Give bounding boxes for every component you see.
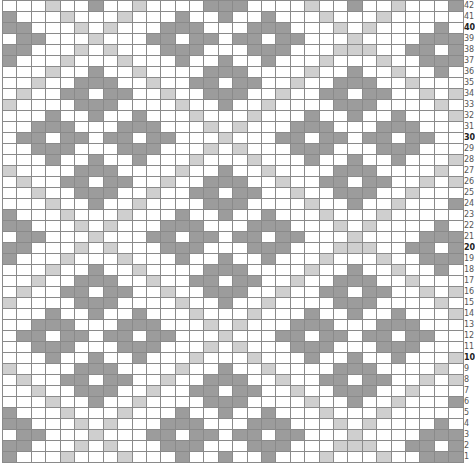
stitch-cell: [190, 166, 204, 177]
stitch-cell: [118, 221, 132, 232]
stitch-cell: [392, 320, 406, 331]
stitch-cell: [161, 12, 175, 23]
stitch-cell: [420, 188, 434, 199]
stitch-cell: [435, 452, 449, 463]
stitch-cell: [219, 23, 233, 34]
stitch-cell: [420, 243, 434, 254]
stitch-cell: [118, 34, 132, 45]
stitch-cell: [104, 342, 118, 353]
stitch-cell: [118, 419, 132, 430]
stitch-cell: [435, 298, 449, 309]
stitch-cell: [348, 221, 362, 232]
stitch-cell: [61, 386, 75, 397]
stitch-cell: [420, 12, 434, 23]
row-label: 33: [464, 99, 475, 110]
stitch-cell: [219, 375, 233, 386]
stitch-cell: [334, 298, 348, 309]
stitch-cell: [262, 298, 276, 309]
stitch-cell: [104, 23, 118, 34]
row-label: 20: [464, 242, 475, 253]
stitch-cell: [46, 320, 60, 331]
stitch-cell: [118, 67, 132, 78]
stitch-cell: [334, 331, 348, 342]
stitch-cell: [32, 199, 46, 210]
stitch-cell: [377, 430, 391, 441]
stitch-cell: [219, 452, 233, 463]
stitch-cell: [392, 243, 406, 254]
stitch-cell: [190, 133, 204, 144]
stitch-cell: [61, 155, 75, 166]
stitch-cell: [449, 166, 463, 177]
stitch-cell: [392, 210, 406, 221]
stitch-cell: [46, 1, 60, 12]
stitch-cell: [161, 243, 175, 254]
stitch-cell: [204, 1, 218, 12]
stitch-cell: [133, 67, 147, 78]
stitch-cell: [61, 111, 75, 122]
stitch-cell: [104, 397, 118, 408]
stitch-cell: [32, 397, 46, 408]
stitch-cell: [276, 265, 290, 276]
stitch-cell: [363, 23, 377, 34]
stitch-cell: [204, 353, 218, 364]
stitch-cell: [348, 188, 362, 199]
stitch-cell: [291, 67, 305, 78]
stitch-cell: [233, 210, 247, 221]
stitch-cell: [348, 287, 362, 298]
stitch-cell: [190, 364, 204, 375]
stitch-cell: [276, 56, 290, 67]
stitch-cell: [147, 89, 161, 100]
stitch-cell: [32, 408, 46, 419]
stitch-cell: [46, 452, 60, 463]
stitch-cell: [147, 177, 161, 188]
stitch-cell: [118, 89, 132, 100]
stitch-cell: [204, 408, 218, 419]
stitch-cell: [190, 320, 204, 331]
stitch-cell: [262, 419, 276, 430]
stitch-cell: [32, 188, 46, 199]
stitch-cell: [248, 177, 262, 188]
stitch-cell: [32, 309, 46, 320]
stitch-cell: [133, 1, 147, 12]
stitch-cell: [118, 342, 132, 353]
stitch-cell: [104, 298, 118, 309]
stitch-cell: [176, 331, 190, 342]
stitch-cell: [233, 265, 247, 276]
stitch-cell: [392, 408, 406, 419]
stitch-cell: [133, 122, 147, 133]
row-label: 22: [464, 220, 475, 231]
stitch-cell: [46, 375, 60, 386]
stitch-cell: [334, 89, 348, 100]
stitch-cell: [392, 89, 406, 100]
stitch-cell: [147, 320, 161, 331]
stitch-cell: [161, 155, 175, 166]
stitch-cell: [89, 452, 103, 463]
stitch-cell: [377, 419, 391, 430]
stitch-cell: [233, 188, 247, 199]
stitch-cell: [320, 452, 334, 463]
stitch-cell: [104, 199, 118, 210]
stitch-cell: [118, 254, 132, 265]
row-label: 35: [464, 77, 475, 88]
stitch-cell: [89, 12, 103, 23]
stitch-cell: [406, 397, 420, 408]
stitch-cell: [161, 199, 175, 210]
stitch-cell: [248, 298, 262, 309]
stitch-cell: [104, 386, 118, 397]
stitch-cell: [449, 199, 463, 210]
stitch-cell: [248, 100, 262, 111]
stitch-cell: [104, 364, 118, 375]
stitch-cell: [161, 111, 175, 122]
stitch-cell: [133, 254, 147, 265]
stitch-cell: [291, 397, 305, 408]
stitch-cell: [204, 23, 218, 34]
stitch-cell: [3, 232, 17, 243]
stitch-cell: [377, 155, 391, 166]
stitch-cell: [291, 199, 305, 210]
stitch-cell: [46, 133, 60, 144]
stitch-cell: [291, 331, 305, 342]
stitch-cell: [248, 441, 262, 452]
stitch-cell: [161, 34, 175, 45]
stitch-cell: [161, 287, 175, 298]
stitch-cell: [89, 166, 103, 177]
